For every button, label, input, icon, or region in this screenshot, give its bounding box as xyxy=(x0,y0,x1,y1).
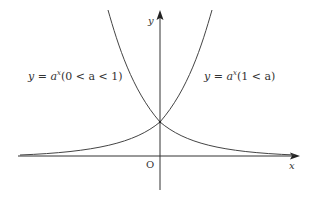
growth-label-prefix: y = a xyxy=(204,70,233,83)
x-axis-label: x xyxy=(289,161,295,171)
decay-label-condition: (0 < a < 1) xyxy=(61,70,123,83)
y-axis-label: y xyxy=(148,16,154,26)
intersection-point xyxy=(159,121,161,123)
growth-label-condition: (1 < a) xyxy=(237,70,275,83)
origin-label: O xyxy=(146,160,154,170)
decay-curve-label: y = ax(0 < a < 1) xyxy=(28,70,123,82)
growth-curve-label: y = ax(1 < a) xyxy=(204,70,275,82)
decay-label-prefix: y = a xyxy=(28,70,57,83)
graph-canvas xyxy=(0,0,315,201)
